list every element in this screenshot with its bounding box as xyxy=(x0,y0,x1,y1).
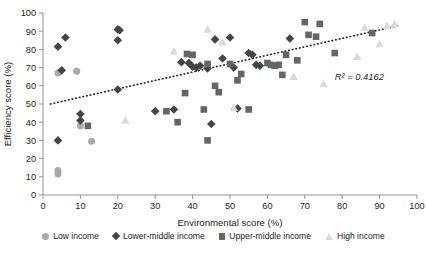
y-axis-tick-label: 70 xyxy=(26,63,36,73)
data-point-circle xyxy=(88,138,95,145)
data-point-square xyxy=(283,52,290,59)
data-point-diamond xyxy=(114,36,123,45)
y-axis-tick-label: 100 xyxy=(21,8,36,18)
data-point-triangle xyxy=(390,20,398,28)
data-point-circle xyxy=(54,171,61,178)
y-axis-tick-label: 60 xyxy=(26,81,36,91)
y-axis-tick-label: 20 xyxy=(26,154,36,164)
legend-diamond-icon xyxy=(112,232,120,240)
y-axis-tick-label: 30 xyxy=(26,136,36,146)
data-point-diamond xyxy=(54,42,63,51)
data-point-square xyxy=(279,72,286,79)
data-point-triangle xyxy=(360,23,368,31)
y-axis-tick-label: 0 xyxy=(31,190,36,200)
data-point-diamond xyxy=(218,54,227,63)
legend-square-icon xyxy=(219,233,226,240)
legend-circle-icon xyxy=(42,233,49,240)
data-point-triangle xyxy=(203,25,211,33)
y-axis-tick-label: 90 xyxy=(26,27,36,37)
legend-item-upper-middle-income[interactable]: Upper-middle income xyxy=(219,232,311,241)
data-point-square xyxy=(182,90,189,97)
chart-plot-area: 0102030405060708090100010203040506070809… xyxy=(0,0,427,257)
data-point-square xyxy=(85,123,92,130)
data-point-diamond xyxy=(286,34,295,43)
x-axis-tick-label: 30 xyxy=(150,201,160,211)
chart-legend: Low incomeLower-middle incomeUpper-middl… xyxy=(0,232,427,241)
data-point-triangle xyxy=(170,47,178,55)
data-point-triangle xyxy=(218,38,226,46)
data-point-square xyxy=(294,57,301,64)
data-point-square xyxy=(234,77,241,84)
data-point-square xyxy=(331,50,338,57)
data-point-diamond xyxy=(54,136,63,145)
x-axis-tick-label: 10 xyxy=(75,201,85,211)
x-axis-tick-label: 100 xyxy=(409,201,424,211)
data-point-square xyxy=(302,19,309,26)
legend-item-lower-middle-income[interactable]: Lower-middle income xyxy=(113,232,205,241)
data-point-square xyxy=(201,106,208,113)
data-point-diamond xyxy=(207,120,216,129)
data-point-square xyxy=(163,108,170,115)
data-point-diamond xyxy=(61,33,70,42)
data-point-circle xyxy=(73,68,80,75)
data-point-square xyxy=(275,62,282,69)
data-point-square xyxy=(215,89,222,96)
data-point-square xyxy=(369,30,376,37)
x-axis-tick-label: 90 xyxy=(374,201,384,211)
x-axis-tick-label: 70 xyxy=(300,201,310,211)
x-axis-tick-label: 20 xyxy=(113,201,123,211)
legend-item-label: Lower-middle income xyxy=(123,232,205,241)
data-point-triangle xyxy=(121,116,129,124)
x-axis-tick-label: 40 xyxy=(187,201,197,211)
x-axis-tick-label: 60 xyxy=(262,201,272,211)
data-point-square xyxy=(305,32,312,39)
x-axis-title: Environmental score (%) xyxy=(177,217,282,228)
legend-item-label: Upper-middle income xyxy=(229,232,311,241)
x-axis-tick-label: 0 xyxy=(40,201,45,211)
data-point-square xyxy=(316,21,323,28)
data-point-square xyxy=(189,52,196,59)
data-point-square xyxy=(174,119,181,126)
data-point-square xyxy=(212,83,219,90)
y-axis-tick-label: 50 xyxy=(26,99,36,109)
data-point-triangle xyxy=(375,40,383,48)
data-point-triangle xyxy=(383,22,391,30)
legend-item-high-income[interactable]: High income xyxy=(325,232,385,241)
data-point-diamond xyxy=(211,35,220,44)
data-point-square xyxy=(227,61,234,68)
data-point-triangle xyxy=(353,52,361,60)
legend-item-low-income[interactable]: Low income xyxy=(42,232,99,241)
data-point-triangle xyxy=(289,73,297,81)
legend-triangle-icon xyxy=(325,233,333,240)
data-point-square xyxy=(313,33,320,40)
data-point-diamond xyxy=(114,85,123,94)
y-axis-tick-label: 80 xyxy=(26,45,36,55)
data-point-diamond xyxy=(170,105,179,114)
y-axis-tick-label: 10 xyxy=(26,172,36,182)
data-point-triangle xyxy=(319,80,327,88)
data-point-diamond xyxy=(226,33,235,42)
y-axis-title: Efficiency score (%) xyxy=(2,62,13,147)
data-point-square xyxy=(238,71,245,78)
data-point-diamond xyxy=(177,58,186,67)
legend-item-label: High income xyxy=(337,232,385,241)
data-point-diamond xyxy=(151,107,160,116)
data-point-diamond xyxy=(76,116,85,125)
y-axis-tick-label: 40 xyxy=(26,118,36,128)
data-point-square xyxy=(204,61,211,68)
scatter-chart: 0102030405060708090100010203040506070809… xyxy=(0,0,427,257)
x-axis-tick-label: 80 xyxy=(337,201,347,211)
data-point-square xyxy=(204,137,211,144)
data-point-square xyxy=(245,106,252,113)
trendline xyxy=(50,26,398,104)
x-axis-tick-label: 50 xyxy=(225,201,235,211)
legend-item-label: Low income xyxy=(53,232,99,241)
chart-annotation-r2: R² = 0.4162 xyxy=(335,71,385,82)
